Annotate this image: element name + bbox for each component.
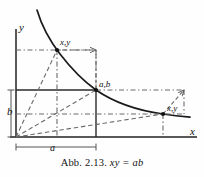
hyperbola-curve: [37, 10, 190, 117]
dashed-rectangle-right: [16, 90, 184, 137]
middle-point-marker: [94, 88, 98, 92]
figure-caption: Abb. 2.13. xy = ab: [0, 157, 204, 168]
upper-point-label: x,y: [60, 38, 70, 47]
y-axis-label: y: [19, 22, 24, 33]
diagonal-rays-from-origin: [16, 50, 163, 137]
caption-equation: xy = ab: [110, 157, 144, 168]
upper-point-marker: [55, 48, 59, 52]
caption-prefix: Abb. 2.13.: [61, 157, 107, 168]
dimension-bracket-a: [16, 144, 96, 151]
dashed-rectangle-upper: [16, 50, 96, 137]
b-dimension-label: b: [7, 106, 13, 117]
arrow-connectors: [57, 50, 184, 114]
x-axis-label: x: [190, 126, 195, 137]
middle-point-label: a,b: [99, 80, 110, 89]
right-point-marker: [161, 112, 165, 116]
right-point-label: x,y: [167, 104, 177, 113]
ray-to-right-point: [16, 114, 163, 137]
figure-container: y x b a x,y a,b x,y Abb. 2.13. xy = ab: [0, 0, 204, 177]
a-dimension-label: a: [50, 143, 55, 153]
ray-to-upper-point: [16, 50, 57, 137]
